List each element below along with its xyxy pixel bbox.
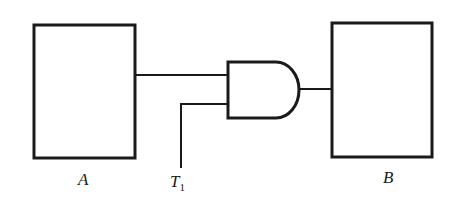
label-b: B (383, 168, 393, 188)
label-a: A (78, 170, 88, 190)
label-t1: T1 (170, 172, 185, 193)
block-a (34, 25, 135, 158)
label-t1-sub: 1 (179, 181, 185, 193)
wire-t1-to-gate (181, 104, 228, 168)
block-b (332, 23, 432, 157)
and-gate (228, 62, 299, 118)
